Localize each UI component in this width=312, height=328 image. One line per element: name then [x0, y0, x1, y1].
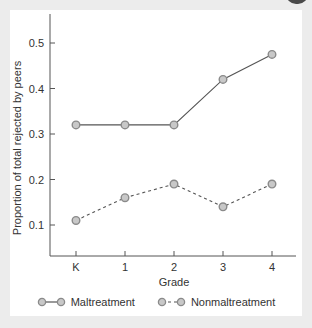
legend-label: Maltreatment: [71, 296, 135, 308]
series-group: [72, 51, 276, 225]
x-tick-label: K: [72, 261, 80, 273]
data-point-marker: [219, 203, 227, 211]
legend: Maltreatment Nonmaltreatment: [0, 296, 312, 308]
series-line-nonmaltreatment: [76, 184, 272, 220]
y-tick-label: 0.4: [29, 83, 44, 95]
legend-item-nonmaltreatment: Nonmaltreatment: [157, 296, 275, 308]
x-tick-label: 2: [171, 261, 177, 273]
axes: [50, 14, 296, 256]
data-point-marker: [170, 180, 178, 188]
y-tick-label: 0.3: [29, 128, 44, 140]
x-tick-labels: K1234: [72, 261, 275, 273]
y-tick-label: 0.5: [29, 37, 44, 49]
dashed-line-marker-icon: [157, 296, 187, 308]
legend-label: Nonmaltreatment: [191, 296, 275, 308]
x-tick-label: 3: [220, 261, 226, 273]
x-tick-label: 1: [122, 261, 128, 273]
x-axis-title: Grade: [159, 276, 190, 288]
y-axis-title: Proportion of total rejected by peers: [11, 60, 23, 235]
y-tick-label: 0.2: [29, 174, 44, 186]
solid-line-marker-icon: [37, 296, 67, 308]
x-tick-label: 4: [269, 261, 275, 273]
data-point-marker: [268, 51, 276, 59]
data-point-marker: [121, 194, 129, 202]
data-point-marker: [121, 121, 129, 129]
legend-item-maltreatment: Maltreatment: [37, 296, 135, 308]
data-point-marker: [72, 121, 80, 129]
y-tick-label: 0.1: [29, 219, 44, 231]
data-point-marker: [72, 217, 80, 225]
line-chart: 0.10.20.30.40.5 K1234 Grade Proportion o…: [0, 0, 312, 300]
y-tick-labels: 0.10.20.30.40.5: [29, 37, 44, 231]
data-point-marker: [268, 180, 276, 188]
series-line-maltreatment: [76, 54, 272, 125]
data-point-marker: [219, 76, 227, 84]
data-point-marker: [170, 121, 178, 129]
